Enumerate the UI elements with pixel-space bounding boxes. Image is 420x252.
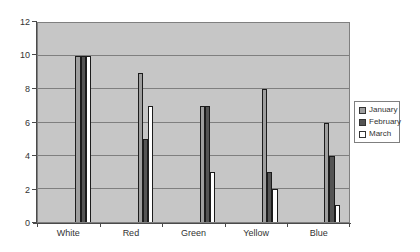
legend-item-january: January	[359, 106, 397, 114]
bar-group-red	[100, 23, 162, 222]
bar-group-blue	[287, 23, 349, 222]
legend-swatch-january-icon	[359, 107, 366, 114]
bar-groups	[38, 23, 349, 222]
x-axis-ticks	[37, 223, 350, 227]
bar-group-green	[162, 23, 224, 222]
x-tick-0	[37, 223, 38, 227]
x-tick-5	[349, 223, 350, 227]
y-axis-labels: 024681012	[0, 22, 30, 223]
legend-label-january: January	[369, 106, 397, 114]
x-tick-2	[162, 223, 163, 227]
bar-march-red	[148, 106, 153, 222]
legend-swatch-march-icon	[359, 131, 366, 138]
legend-item-march: March	[359, 130, 397, 138]
legend-label-february: February	[369, 118, 401, 126]
x-axis-labels: WhiteRedGreenYellowBlue	[37, 229, 350, 241]
legend-label-march: March	[369, 130, 391, 138]
y-axis-label-12: 12	[0, 18, 30, 27]
plot-area	[37, 22, 350, 223]
bar-march-white	[86, 56, 91, 222]
bar-chart: 024681012 WhiteRedGreenYellowBlue Januar…	[0, 0, 420, 252]
y-axis-label-4: 4	[0, 151, 30, 160]
y-axis-line	[36, 22, 37, 224]
x-tick-4	[287, 223, 288, 227]
x-tick-3	[225, 223, 226, 227]
bar-march-blue	[335, 205, 340, 222]
legend-item-february: February	[359, 118, 397, 126]
legend: JanuaryFebruaryMarch	[354, 101, 400, 143]
bar-group-yellow	[225, 23, 287, 222]
x-tick-1	[100, 223, 101, 227]
x-axis-label-green: Green	[162, 229, 225, 241]
bar-march-green	[210, 172, 215, 222]
x-axis-label-red: Red	[100, 229, 163, 241]
y-axis-label-10: 10	[0, 51, 30, 60]
y-axis-label-6: 6	[0, 118, 30, 127]
bar-group-white	[38, 23, 100, 222]
x-axis-label-yellow: Yellow	[225, 229, 288, 241]
x-axis-label-blue: Blue	[287, 229, 350, 241]
x-axis-label-white: White	[37, 229, 100, 241]
y-axis-label-8: 8	[0, 84, 30, 93]
y-axis-label-0: 0	[0, 219, 30, 228]
y-axis-label-2: 2	[0, 185, 30, 194]
bar-march-yellow	[272, 189, 277, 222]
legend-swatch-february-icon	[359, 119, 366, 126]
